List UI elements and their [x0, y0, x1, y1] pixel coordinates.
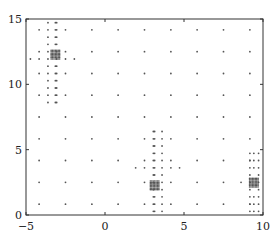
data-point	[253, 186, 255, 188]
data-point	[151, 180, 153, 182]
data-point	[152, 182, 154, 184]
data-point	[258, 167, 260, 169]
data-point	[54, 43, 56, 45]
data-point	[250, 178, 252, 180]
data-point	[253, 180, 255, 182]
data-point	[256, 178, 258, 180]
data-point	[240, 181, 242, 183]
data-point	[154, 210, 156, 212]
data-point	[38, 58, 40, 60]
data-point	[152, 185, 154, 187]
data-point	[55, 55, 57, 57]
data-point	[249, 73, 251, 75]
data-point	[250, 183, 252, 185]
data-point	[257, 186, 259, 188]
data-point	[223, 94, 225, 96]
data-point	[157, 185, 159, 187]
data-point	[158, 183, 160, 185]
x-tick-label: 0	[102, 220, 109, 233]
data-point	[154, 185, 156, 187]
data-point	[38, 29, 40, 31]
data-point	[154, 160, 156, 162]
data-point	[256, 180, 258, 182]
data-point	[250, 185, 252, 187]
data-point	[154, 152, 156, 154]
data-point	[117, 73, 119, 75]
data-point	[52, 54, 54, 56]
x-tick-label: 5	[181, 220, 188, 233]
data-point	[161, 181, 163, 183]
data-point	[56, 57, 58, 59]
data-point	[55, 57, 57, 59]
data-point	[258, 174, 260, 176]
data-point	[50, 52, 52, 54]
data-point	[196, 73, 198, 75]
data-point	[91, 94, 93, 96]
data-point	[170, 138, 172, 140]
data-point	[50, 51, 52, 53]
data-point	[47, 94, 49, 96]
data-point	[47, 65, 49, 67]
data-point	[154, 131, 156, 133]
data-point	[53, 58, 55, 60]
data-point	[155, 185, 157, 187]
data-point	[249, 186, 251, 188]
data-point	[73, 58, 75, 60]
data-point	[154, 174, 156, 176]
data-point	[157, 186, 159, 188]
data-point	[91, 138, 93, 140]
data-point	[52, 55, 54, 57]
data-point	[57, 54, 59, 56]
data-point	[249, 174, 251, 176]
data-point	[253, 182, 255, 184]
data-point	[196, 181, 198, 183]
data-point	[52, 58, 54, 60]
data-point	[65, 73, 67, 75]
data-point	[56, 54, 58, 56]
data-point	[250, 180, 252, 182]
data-point	[151, 186, 153, 188]
data-point	[154, 180, 156, 182]
data-point	[151, 185, 153, 187]
data-point	[53, 57, 55, 59]
scatter-chart: −50510 051015	[0, 0, 279, 242]
data-point	[59, 58, 61, 60]
data-point	[254, 179, 256, 181]
data-point	[38, 138, 40, 140]
data-point	[47, 43, 49, 45]
data-point	[161, 131, 163, 133]
data-point	[144, 181, 146, 183]
y-tick-label: 5	[15, 144, 22, 157]
data-point	[252, 179, 254, 181]
data-point	[257, 185, 259, 187]
data-point	[54, 36, 56, 38]
data-point	[56, 52, 58, 54]
data-point	[54, 80, 56, 82]
data-point	[54, 22, 56, 24]
data-point	[53, 55, 55, 57]
data-point	[258, 152, 260, 154]
data-point	[57, 55, 59, 57]
y-tick-label: 15	[8, 13, 22, 26]
data-point	[257, 182, 259, 184]
data-point	[249, 185, 251, 187]
data-point	[196, 116, 198, 118]
data-point	[161, 203, 163, 205]
data-point	[54, 73, 56, 75]
data-point	[56, 58, 58, 60]
y-axis-tick-labels: 051015	[8, 13, 22, 222]
data-point	[249, 189, 251, 191]
data-point	[54, 87, 56, 89]
data-point	[52, 52, 54, 54]
data-point	[154, 182, 156, 184]
data-point	[257, 178, 259, 180]
data-point	[151, 187, 153, 189]
data-point	[47, 22, 49, 24]
data-point	[254, 182, 256, 184]
data-point	[117, 116, 119, 118]
data-point	[52, 51, 54, 53]
data-point	[157, 187, 159, 189]
data-point	[91, 29, 93, 31]
data-point	[158, 187, 160, 189]
data-point	[59, 57, 61, 59]
